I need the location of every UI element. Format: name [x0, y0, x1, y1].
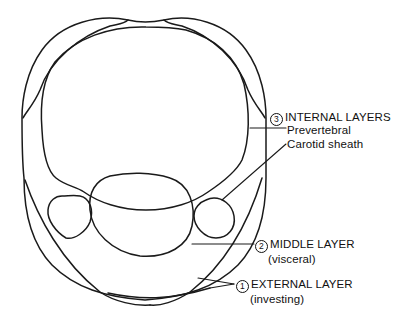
external-layer-inner-lower-left — [25, 180, 150, 305]
external-layer-label: 1EXTERNAL LAYER — [236, 278, 353, 293]
carotid-sheath-label: Carotid sheath — [287, 138, 363, 151]
number-1-icon: 1 — [236, 280, 249, 293]
external-layer-outline — [22, 18, 266, 300]
number-3-icon: 3 — [270, 113, 283, 126]
prevertebral-layer-outline — [41, 27, 248, 210]
external-layer-inner-upper-left — [23, 20, 128, 118]
carotid-sheath-right — [194, 198, 234, 238]
carotid-sheath-left — [48, 196, 92, 239]
visceral-label: (visceral) — [268, 253, 316, 266]
leader-line-external-b — [210, 284, 234, 288]
neck-fascia-diagram — [0, 0, 398, 322]
internal-layers-title: INTERNAL LAYERS — [285, 111, 391, 123]
external-layer-bottom-cross — [108, 288, 210, 298]
visceral-layer-outline — [90, 173, 193, 256]
middle-layer-label: 2MIDDLE LAYER — [255, 238, 355, 253]
number-2-icon: 2 — [255, 240, 268, 253]
external-layer-inner-upper-right — [164, 20, 265, 118]
middle-layer-title: MIDDLE LAYER — [270, 238, 355, 250]
investing-label: (investing) — [250, 293, 304, 306]
external-layer-title: EXTERNAL LAYER — [251, 278, 353, 290]
leader-line-carotid — [222, 144, 286, 200]
prevertebral-label: Prevertebral — [287, 124, 351, 137]
